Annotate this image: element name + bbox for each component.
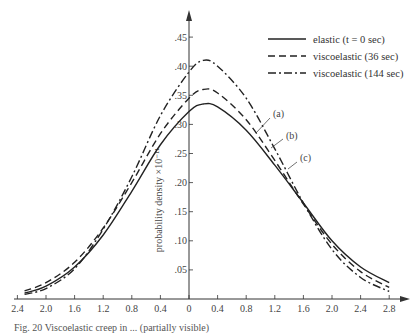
y-tick-label: .45 — [175, 32, 188, 43]
y-tick-label: .05 — [175, 264, 188, 275]
x-tick-label: 1.6 — [297, 303, 310, 314]
y-axis-arrow-icon — [186, 10, 192, 21]
curve-dashed — [25, 89, 390, 291]
x-tick-label: 2.4 — [354, 303, 367, 314]
y-tick-label: .40 — [175, 61, 188, 72]
curve-solid — [25, 103, 390, 293]
x-tick-label: 1.2 — [97, 303, 110, 314]
y-tick-label: .10 — [175, 235, 188, 246]
legend: elastic (t = 0 sec)viscoelastic (36 sec)… — [268, 34, 404, 80]
x-tick-label: 2.4 — [11, 303, 24, 314]
y-tick-label: .35 — [175, 90, 188, 101]
x-tick-label: 0.4 — [154, 303, 167, 314]
annotations: (a)(b)(c) — [256, 108, 311, 169]
annotation-leader — [271, 139, 283, 148]
y-axis-label: probability density ×10⁻¹¹ — [153, 148, 164, 252]
x-axis-arrow-icon — [400, 296, 410, 302]
y-tick-label: .15 — [175, 206, 188, 217]
legend-label: viscoelastic (36 sec) — [313, 51, 399, 63]
curves — [25, 60, 390, 294]
y-tick-label: .25 — [175, 148, 188, 159]
y-tick-label: .20 — [175, 177, 188, 188]
x-tick-label: 1.2 — [269, 303, 282, 314]
annotation-leader — [288, 162, 297, 169]
x-tick-label: 0 — [187, 303, 192, 314]
x-tick-label: 2.0 — [40, 303, 53, 314]
annotation-leader — [256, 118, 270, 133]
x-tick-label: 0.8 — [240, 303, 253, 314]
x-tick-label: 1.6 — [68, 303, 81, 314]
annotation-label: (c) — [300, 152, 311, 164]
x-tick-label: 2.0 — [326, 303, 339, 314]
figure-caption: Fig. 20 Viscoelastic creep in ... (parti… — [14, 322, 209, 333]
x-tick-label: 0.8 — [126, 303, 139, 314]
chart-canvas: 2.42.01.61.20.80.400.40.81.21.62.02.42.8… — [0, 0, 419, 333]
curve-dash-dot — [25, 60, 390, 294]
x-tick-label: 0.4 — [211, 303, 224, 314]
annotation-label: (b) — [286, 130, 298, 142]
annotation-label: (a) — [273, 108, 284, 120]
legend-label: viscoelastic (144 sec) — [313, 68, 404, 80]
legend-label: elastic (t = 0 sec) — [313, 34, 385, 46]
x-tick-label: 2.8 — [383, 303, 396, 314]
